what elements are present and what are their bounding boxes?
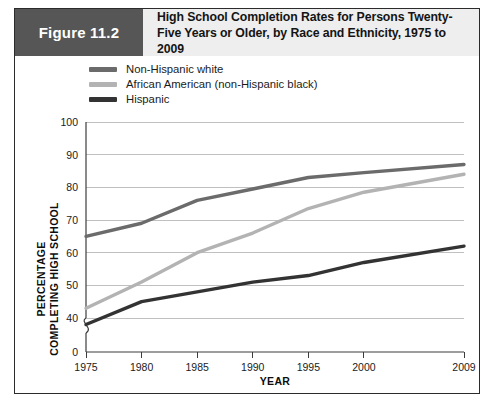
y-tick-label: 90	[66, 149, 78, 161]
data-series-layer	[86, 164, 464, 324]
legend-swatch-icon	[89, 82, 117, 87]
y-axis-zero-label: 0	[72, 346, 78, 358]
y-tick-label: 50	[66, 279, 78, 291]
x-tick-label: 1995	[297, 361, 321, 373]
gridlines	[86, 122, 464, 318]
figure-container: Figure 11.2 High School Completion Rates…	[14, 8, 480, 394]
series-line-non-hispanic-white	[86, 164, 464, 236]
line-chart-svg: PERCENTAGE COMPLETING HIGH SCHOOL 405060…	[15, 109, 479, 395]
y-tick-label: 60	[66, 247, 78, 259]
legend-item-hispanic: Hispanic	[89, 92, 419, 107]
legend-item-non-hispanic-white: Non-Hispanic white	[89, 62, 419, 77]
legend-label: Non-Hispanic white	[126, 63, 223, 76]
series-line-african-american-non-hispanic-black	[86, 174, 464, 308]
figure-number-badge: Figure 11.2	[15, 9, 143, 56]
legend-item-african-american: African American (non-Hispanic black)	[89, 77, 419, 92]
x-axis-title: YEAR	[260, 375, 290, 387]
y-tick-label: 40	[66, 312, 78, 324]
legend-swatch-icon	[89, 97, 117, 102]
x-tick-label: 2000	[352, 361, 376, 373]
x-axis-ticks	[86, 352, 464, 358]
y-axis-tick-labels: 405060708090100	[60, 116, 78, 324]
figure-title: High School Completion Rates for Persons…	[143, 9, 479, 56]
x-tick-label: 1975	[74, 361, 98, 373]
x-tick-label: 1980	[130, 361, 154, 373]
legend-swatch-icon	[89, 67, 117, 72]
x-tick-label: 2009	[452, 361, 476, 373]
x-axis-tick-labels: 1975198019851990199520002009	[74, 361, 476, 373]
legend-label: Hispanic	[126, 93, 169, 106]
figure-header: Figure 11.2 High School Completion Rates…	[15, 9, 479, 56]
chart-plot-area: PERCENTAGE COMPLETING HIGH SCHOOL 405060…	[15, 109, 479, 395]
x-tick-label: 1985	[185, 361, 209, 373]
chart-legend: Non-Hispanic white African American (non…	[89, 62, 419, 107]
y-axis-title-line2: COMPLETING HIGH SCHOOL	[48, 202, 60, 356]
y-axis-title-line1: PERCENTAGE	[35, 241, 47, 316]
y-tick-label: 70	[66, 214, 78, 226]
y-tick-label: 80	[66, 181, 78, 193]
x-tick-label: 1990	[241, 361, 265, 373]
legend-label: African American (non-Hispanic black)	[126, 78, 318, 91]
y-tick-label: 100	[60, 116, 78, 128]
